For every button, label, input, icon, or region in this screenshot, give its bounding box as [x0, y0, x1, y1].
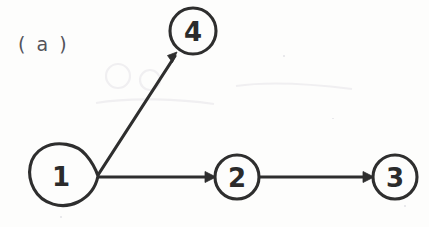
node-3-label: 3: [386, 163, 404, 193]
paper-speck: [283, 55, 285, 57]
node-1-label: 1: [52, 162, 70, 192]
bleed-mark: [96, 99, 214, 104]
node-2[interactable]: 2: [215, 155, 259, 199]
edge-1-to-4: [98, 56, 175, 175]
node-4-label: 4: [184, 17, 202, 47]
paper-speck: [404, 205, 406, 207]
paper-speck: [332, 118, 334, 119]
bleed-mark: [106, 64, 130, 88]
node-1[interactable]: 1: [30, 144, 98, 206]
bleed-mark: [140, 70, 160, 90]
node-2-label: 2: [228, 163, 246, 193]
figure-container: 1 4 2 3 ( a ): [0, 0, 429, 227]
panel-label: ( a ): [18, 33, 69, 55]
node-4[interactable]: 4: [170, 8, 216, 54]
graph-diagram-canvas: 1 4 2 3 ( a ): [0, 0, 429, 227]
paper-speck: [60, 216, 62, 218]
bleed-mark: [236, 83, 352, 89]
node-3[interactable]: 3: [373, 155, 417, 199]
